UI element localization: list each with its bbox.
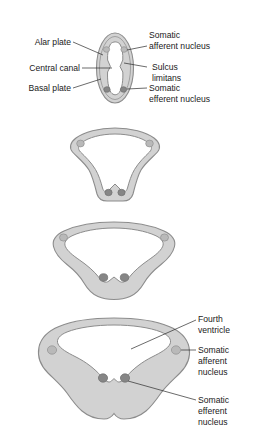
label-p4-efferent-word: efferent — [198, 406, 228, 416]
panel-1-nucleus-afferent-right — [121, 47, 127, 53]
label-limitans-word: limitans — [152, 73, 181, 83]
panel-3-nucleus-efferent-right — [120, 274, 128, 282]
label-p4-somatic-efferent-word: Somatic — [198, 395, 230, 405]
panel-3 — [53, 222, 175, 300]
panel-2-nucleus-efferent-right — [118, 189, 125, 195]
panel-4-nucleus-efferent-left — [98, 374, 107, 382]
label-somatic-efferent-word: Somatic — [149, 83, 181, 93]
panel-4-nucleus-afferent-right — [171, 346, 180, 354]
label-afferent-nucleus-word: afferent nucleus — [149, 41, 210, 51]
label-basal-plate: Basal plate — [28, 83, 71, 93]
panel-1-nucleus-efferent-left — [104, 87, 110, 93]
panel-1-nucleus-afferent-left — [103, 47, 109, 53]
panel-3-nucleus-afferent-left — [60, 234, 68, 241]
label-p4-nucleus-efferent-word: nucleus — [198, 417, 228, 427]
label-sulcus-word: Sulcus — [152, 62, 178, 72]
label-somatic-afferent-word: Somatic — [149, 30, 181, 40]
panel-4-nucleus-afferent-left — [47, 346, 56, 354]
panel-2-nucleus-afferent-left — [77, 140, 85, 147]
label-p4-somatic-afferent-word: Somatic — [198, 345, 230, 355]
panel-2-nucleus-afferent-right — [146, 140, 154, 147]
panel-1: Alar plate Central canal Basal plate Som… — [28, 30, 210, 104]
panel-1-nucleus-efferent-right — [120, 87, 126, 93]
panel-2-nucleus-efferent-left — [105, 189, 112, 195]
panel-4: Fourth ventricle Somatic afferent nucleu… — [38, 314, 230, 427]
label-p4-nucleus-afferent-word: nucleus — [198, 367, 228, 377]
neural-tube-development-figure: Alar plate Central canal Basal plate Som… — [0, 0, 258, 448]
label-central-canal: Central canal — [29, 63, 80, 73]
panel-3-nucleus-afferent-right — [161, 234, 169, 241]
panel-3-nucleus-efferent-left — [99, 274, 107, 282]
leader-basal-plate — [73, 79, 101, 88]
panel-2 — [70, 128, 159, 201]
label-alar-plate: Alar plate — [35, 37, 72, 47]
leader-alar-plate — [73, 42, 103, 55]
label-efferent-nucleus-word: efferent nucleus — [149, 94, 210, 104]
label-ventricle-word: ventricle — [198, 325, 230, 335]
label-fourth-word: Fourth — [198, 314, 223, 324]
label-p4-afferent-word: afferent — [198, 356, 228, 366]
